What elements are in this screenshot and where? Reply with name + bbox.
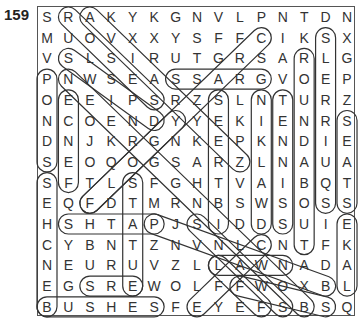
grid-letter[interactable]: D [316,255,336,275]
grid-letter[interactable]: E [337,214,357,234]
grid-letter[interactable]: N [273,131,293,151]
grid-letter[interactable]: Y [166,28,186,48]
grid-letter[interactable]: N [37,255,57,275]
grid-letter[interactable]: H [37,214,57,234]
grid-letter[interactable]: T [294,235,314,255]
grid-letter[interactable]: G [144,131,164,151]
grid-letter[interactable]: A [251,173,271,193]
grid-letter[interactable]: D [294,131,314,151]
grid-letter[interactable]: O [80,111,100,131]
grid-letter[interactable]: V [208,7,228,27]
grid-letter[interactable]: M [144,193,164,213]
grid-letter[interactable]: L [187,255,207,275]
grid-letter[interactable]: R [123,131,143,151]
grid-letter[interactable]: U [294,214,314,234]
grid-letter[interactable]: L [80,48,100,68]
grid-letter[interactable]: F [58,173,78,193]
grid-letter[interactable]: S [37,152,57,172]
grid-letter[interactable]: C [251,235,271,255]
grid-letter[interactable]: S [101,69,121,89]
grid-letter[interactable]: K [144,7,164,27]
grid-letter[interactable]: G [58,276,78,296]
grid-letter[interactable]: K [251,131,271,151]
grid-letter[interactable]: F [166,297,186,317]
grid-letter[interactable]: V [230,173,250,193]
grid-letter[interactable]: K [101,131,121,151]
grid-letter[interactable]: A [294,255,314,275]
grid-letter[interactable]: S [58,48,78,68]
grid-letter[interactable]: N [273,152,293,172]
grid-letter[interactable]: E [316,69,336,89]
grid-letter[interactable]: S [101,48,121,68]
grid-letter[interactable]: X [123,28,143,48]
grid-letter[interactable]: N [273,7,293,27]
grid-letter[interactable]: W [251,255,271,275]
grid-letter[interactable]: F [316,235,336,255]
grid-letter[interactable]: V [101,28,121,48]
grid-letter[interactable]: F [144,173,164,193]
grid-letter[interactable]: S [166,152,186,172]
grid-letter[interactable]: I [273,173,293,193]
grid-letter[interactable]: H [101,297,121,317]
grid-letter[interactable]: L [251,152,271,172]
grid-letter[interactable]: L [187,276,207,296]
grid-letter[interactable]: Q [101,152,121,172]
grid-letter[interactable]: A [123,214,143,234]
grid-letter[interactable]: F [208,28,228,48]
grid-letter[interactable]: N [187,7,207,27]
grid-letter[interactable]: A [337,152,357,172]
grid-letter[interactable]: A [187,152,207,172]
grid-letter[interactable]: E [101,111,121,131]
grid-letter[interactable]: E [273,111,293,131]
grid-letter[interactable]: D [230,214,250,234]
grid-letter[interactable]: N [166,131,186,151]
grid-letter[interactable]: R [316,90,336,110]
grid-letter[interactable]: A [230,255,250,275]
grid-letter[interactable]: A [273,48,293,68]
grid-letter[interactable]: A [337,255,357,275]
grid-letter[interactable]: L [230,7,250,27]
grid-letter[interactable]: Z [337,90,357,110]
grid-letter[interactable]: A [144,69,164,89]
grid-letter[interactable]: Q [316,173,336,193]
grid-letter[interactable]: K [101,7,121,27]
grid-letter[interactable]: K [294,28,314,48]
grid-letter[interactable]: W [80,69,100,89]
grid-letter[interactable]: J [166,214,186,234]
grid-letter[interactable]: R [230,48,250,68]
grid-letter[interactable]: S [187,69,207,89]
grid-letter[interactable]: N [166,235,186,255]
grid-letter[interactable]: N [37,111,57,131]
grid-letter[interactable]: S [37,7,57,27]
grid-letter[interactable]: T [294,7,314,27]
grid-letter[interactable]: V [37,48,57,68]
grid-letter[interactable]: U [316,152,336,172]
grid-letter[interactable]: C [251,28,271,48]
grid-letter[interactable]: N [251,90,271,110]
grid-letter[interactable]: N [294,111,314,131]
grid-letter[interactable]: B [316,276,336,296]
grid-letter[interactable]: E [187,297,207,317]
grid-letter[interactable]: K [337,235,357,255]
grid-letter[interactable]: N [58,69,78,89]
grid-letter[interactable]: B [80,235,100,255]
grid-letter[interactable]: I [101,90,121,110]
grid-letter[interactable]: G [144,152,164,172]
grid-letter[interactable]: R [166,193,186,213]
grid-letter[interactable]: S [337,193,357,213]
grid-letter[interactable]: D [37,131,57,151]
grid-letter[interactable]: I [251,111,271,131]
grid-letter[interactable]: S [316,193,336,213]
grid-letter[interactable]: R [144,48,164,68]
grid-letter[interactable]: T [123,193,143,213]
grid-letter[interactable]: S [166,69,186,89]
grid-letter[interactable]: L [337,276,357,296]
grid-letter[interactable]: I [273,28,293,48]
grid-letter[interactable]: U [80,255,100,275]
grid-letter[interactable]: S [144,297,164,317]
grid-letter[interactable]: F [230,276,250,296]
grid-letter[interactable]: R [58,7,78,27]
grid-letter[interactable]: L [230,235,250,255]
grid-letter[interactable]: W [251,193,271,213]
grid-letter[interactable]: X [294,276,314,296]
